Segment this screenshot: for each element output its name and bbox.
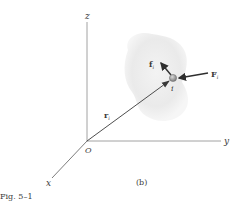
external-force-label: Fi — [211, 69, 219, 80]
rigid-body-shape — [125, 33, 189, 121]
panel-label: (b) — [136, 178, 147, 187]
particle-i — [169, 74, 176, 81]
y-axis-label: y — [223, 136, 230, 146]
x-axis-label: x — [46, 178, 51, 188]
diagram-svg: z y x O i ri fi Fi (b) Fig. 5–1 — [0, 0, 241, 202]
origin-label: O — [85, 146, 92, 155]
figure-caption: Fig. 5–1 — [0, 192, 33, 201]
particle-label: i — [171, 84, 174, 93]
z-axis-label: z — [84, 11, 90, 21]
x-axis — [52, 141, 87, 178]
figure-canvas: z y x O i ri fi Fi (b) Fig. 5–1 — [0, 0, 241, 202]
position-vector-label: ri — [104, 110, 110, 121]
